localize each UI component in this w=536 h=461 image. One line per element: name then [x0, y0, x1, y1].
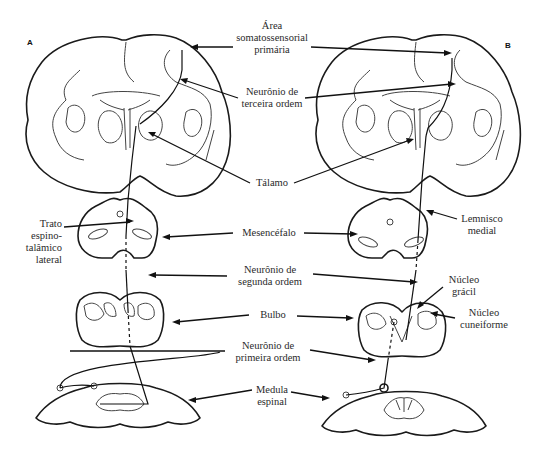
label-line: lateral [10, 254, 62, 266]
panel-letter-b: B [505, 41, 511, 50]
panel-letter-a: A [27, 38, 33, 47]
label-neuronio-segunda-ordem: Neurônio de segunda ordem [227, 264, 313, 288]
label-line: Neurônio de [225, 340, 311, 352]
label-line: medial [459, 225, 505, 237]
label-line: Medula [252, 384, 292, 396]
spinal-cord-b [322, 384, 486, 436]
sensory-pathway-diagram: A B Área somatossensorial primária Neurô… [0, 0, 536, 461]
label-medula-espinal: Medula espinal [252, 384, 292, 408]
medulla-a [76, 293, 163, 347]
brain-b [316, 35, 520, 196]
label-area-somatossensorial: Área somatossensorial primária [233, 20, 311, 56]
label-line: Lemnisco [459, 213, 505, 225]
label-line: Neurônio de [238, 86, 306, 98]
label-line: primeira ordem [225, 352, 311, 364]
midbrain-b [348, 198, 428, 258]
label-bulbo: Bulbo [249, 309, 297, 321]
midbrain-a [78, 198, 158, 258]
label-nucleo-gracil: Núcleo grácil [446, 274, 482, 298]
spinal-cord-a [36, 383, 200, 428]
first-order-neuron-a [60, 352, 220, 388]
label-line: Núcleo [446, 274, 482, 286]
label-neuronio-terceira-ordem: Neurônio de terceira ordem [238, 86, 306, 110]
medulla-b [358, 303, 445, 357]
label-neuronio-primeira-ordem: Neurônio de primeira ordem [225, 340, 311, 364]
label-talamo: Tálamo [250, 177, 294, 189]
label-line: primária [233, 44, 311, 56]
label-line: Neurônio de [227, 264, 313, 276]
label-line: grácil [446, 286, 482, 298]
label-mesencefalo: Mesencéfalo [233, 227, 305, 239]
label-line: Núcleo [458, 307, 510, 319]
label-line: espinal [252, 396, 292, 408]
label-line: talâmico [10, 242, 62, 254]
label-line: terceira ordem [238, 98, 306, 110]
label-line: Trato [10, 218, 62, 230]
label-line: somatossensorial [233, 32, 311, 44]
label-lemnisco-medial: Lemnisco medial [459, 213, 505, 237]
brain-a [26, 35, 230, 196]
label-nucleo-cuneiforme: Núcleo cuneiforme [458, 307, 510, 331]
label-trato-espinotalamico-lateral: Trato espino- talâmico lateral [10, 218, 62, 266]
label-line: cuneiforme [458, 319, 510, 331]
label-line: espino- [10, 230, 62, 242]
label-line: segunda ordem [227, 276, 313, 288]
label-line: Área [233, 20, 311, 32]
